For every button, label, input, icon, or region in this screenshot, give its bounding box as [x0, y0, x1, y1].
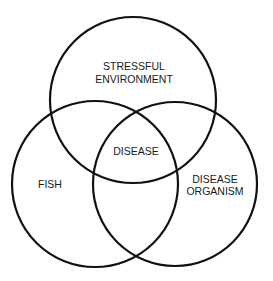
stressful-environment-circle — [50, 17, 216, 183]
disease-organism-label-line2: ORGANISM — [186, 185, 243, 197]
fish-circle — [12, 101, 178, 267]
fish-label: FISH — [38, 178, 62, 190]
venn-diagram: STRESSFUL ENVIRONMENT DISEASE FISH DISEA… — [0, 0, 273, 281]
environment-label-line2: ENVIRONMENT — [95, 73, 173, 85]
stressful-label-line1: STRESSFUL — [103, 60, 165, 72]
disease-organism-label-line1: DISEASE — [192, 173, 238, 185]
disease-intersection-label: DISEASE — [113, 145, 159, 157]
